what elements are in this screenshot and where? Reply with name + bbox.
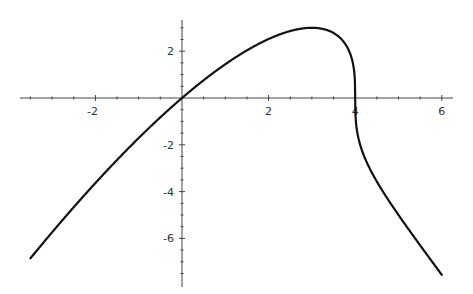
tick-labels: -22462-2-4-6 (87, 45, 445, 245)
function-curve (30, 28, 441, 275)
x-tick-label: 2 (265, 105, 272, 118)
y-tick-label: -2 (163, 139, 174, 152)
y-tick-label: -4 (163, 186, 174, 199)
y-tick-label: -6 (163, 232, 174, 245)
axes (20, 20, 453, 287)
x-tick-label: 6 (438, 105, 445, 118)
y-tick-label: 2 (167, 45, 174, 58)
function-plot: -22462-2-4-6 (0, 0, 473, 294)
x-tick-label: -2 (87, 105, 98, 118)
axis-ticks (30, 28, 441, 274)
